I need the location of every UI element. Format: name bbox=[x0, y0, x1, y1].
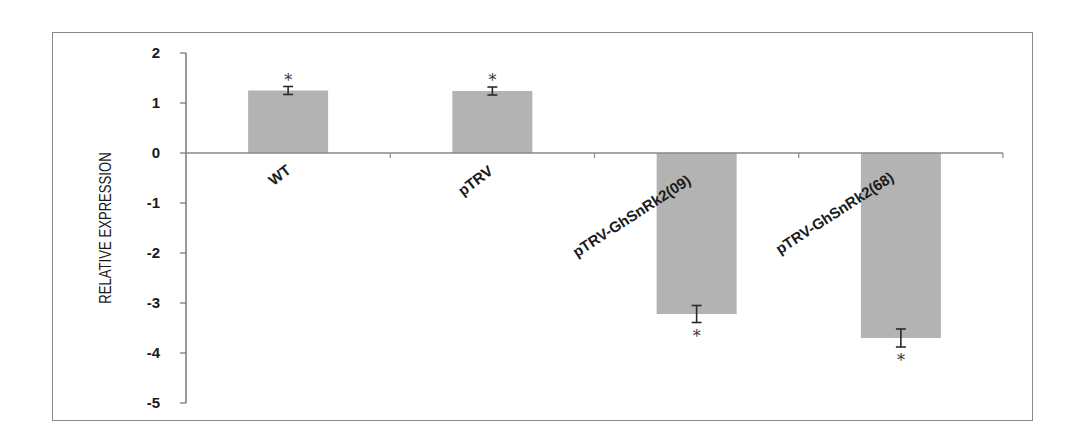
y-tick-label: -4 bbox=[147, 344, 161, 361]
x-tick-label: pTRV bbox=[455, 162, 496, 199]
y-tick-label: 2 bbox=[152, 44, 160, 61]
y-tick-label: -3 bbox=[147, 294, 160, 311]
y-tick-labels: 210-1-2-3-4-5 bbox=[147, 44, 161, 411]
bar-0 bbox=[248, 91, 328, 154]
significance-marker: * bbox=[284, 71, 292, 90]
y-tick-label: -5 bbox=[147, 394, 160, 411]
x-tick-label: WT bbox=[265, 161, 294, 189]
y-tick-label: 1 bbox=[152, 94, 160, 111]
bar-1 bbox=[452, 91, 532, 153]
bar-2 bbox=[657, 153, 737, 314]
bar-chart: **** 210-1-2-3-4-5 WTpTRVpTRV-GhSnRk2(09… bbox=[0, 0, 1088, 443]
y-tick-label: 0 bbox=[152, 144, 160, 161]
significance-marker: * bbox=[693, 327, 701, 346]
significance-marker: * bbox=[488, 71, 496, 90]
significance-marker: * bbox=[897, 351, 905, 370]
y-tick-label: -2 bbox=[147, 244, 160, 261]
y-axis-title: RELATIVE EXPRESSION bbox=[97, 152, 114, 303]
y-tick-label: -1 bbox=[147, 194, 160, 211]
x-tick-labels: WTpTRVpTRV-GhSnRk2(09)pTRV-GhSnRk2(68) bbox=[265, 161, 897, 260]
